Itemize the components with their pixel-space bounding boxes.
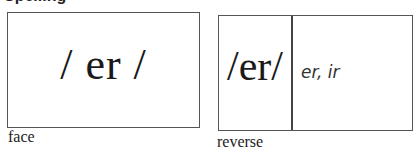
reverse-caption: reverse [217, 133, 263, 151]
heading-clip: Spelling [0, 0, 418, 6]
card-divider [291, 16, 293, 130]
face-caption: face [8, 128, 35, 146]
reverse-sound-text: /er/ [219, 42, 291, 90]
reverse-card: /er/ er, ir [218, 15, 413, 131]
face-sound-text: / er / [8, 39, 199, 90]
face-card: / er / [7, 12, 200, 128]
reverse-spellings-text: er, ir [301, 62, 339, 82]
section-heading: Spelling [4, 0, 66, 6]
